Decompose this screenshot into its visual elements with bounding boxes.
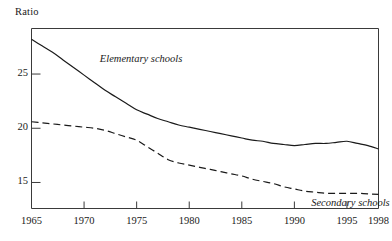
x-axis-tick-label: 1998 [368, 215, 389, 226]
plot-frame [32, 29, 379, 209]
series-line-secondary [32, 122, 379, 195]
x-axis-tick-label: 1985 [231, 215, 252, 226]
x-axis-tick-label: 1990 [284, 215, 305, 226]
series-label-elementary: Elementary schools [100, 53, 183, 64]
series-line-elementary [32, 39, 379, 149]
pupil-teacher-ratio-chart: Ratio 252015 196519701975198019851990199… [0, 0, 392, 241]
x-axis-tick-label: 1975 [126, 215, 147, 226]
y-axis-tick-label: 15 [6, 175, 28, 186]
y-axis-tick-label: 25 [6, 67, 28, 78]
y-axis-title: Ratio [15, 6, 39, 17]
x-axis-tick-label: 1980 [179, 215, 200, 226]
x-axis-tick-label: 1995 [336, 215, 357, 226]
x-axis-tick-label: 1970 [74, 215, 95, 226]
series-label-secondary: Secondary schools [311, 197, 389, 208]
x-axis-tick-label: 1965 [21, 215, 42, 226]
y-axis-tick-label: 20 [6, 121, 28, 132]
